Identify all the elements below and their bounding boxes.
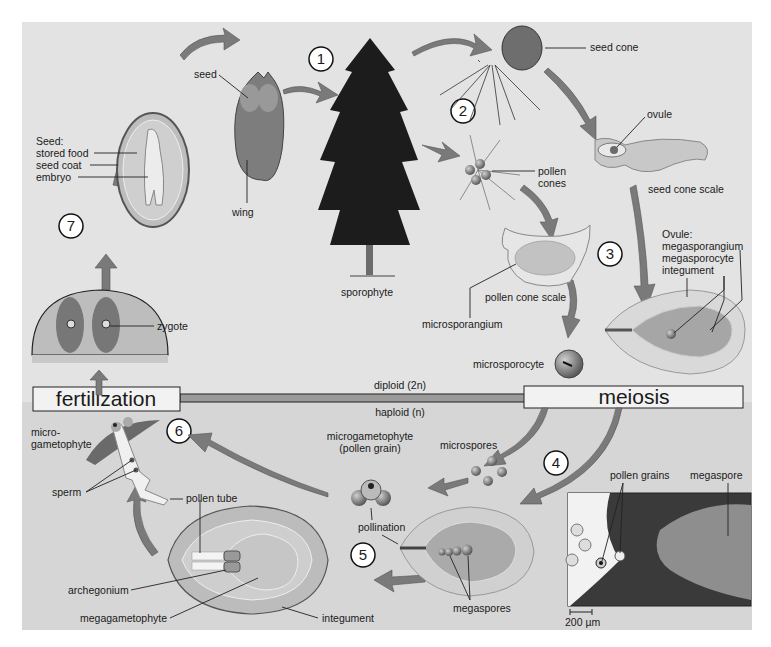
microgametophyte-pollen-grain-label-line2: (pollen grain)	[339, 442, 400, 454]
seed-cone-scale-label: seed cone scale	[648, 183, 724, 195]
embryo-label: embryo	[36, 171, 71, 183]
seed-cone-label: seed cone	[590, 41, 639, 53]
seed-cross-section	[117, 113, 189, 227]
ovule-title: Ovule:	[662, 228, 692, 240]
svg-text:1: 1	[317, 50, 325, 67]
svg-text:5: 5	[359, 546, 367, 563]
diploid-label: diploid (2n)	[374, 379, 426, 391]
pollen-cone-scale-label: pollen cone scale	[485, 291, 566, 303]
seed-label: seed	[194, 68, 217, 80]
megasporocyte-label: megasporocyte	[662, 252, 734, 264]
step-5-marker: 5	[351, 543, 375, 567]
pollen-cones-label-line1: pollen	[538, 165, 566, 177]
integument-label-top: integument	[662, 264, 714, 276]
microsporangium-label: microsporangium	[422, 318, 503, 330]
svg-text:4: 4	[552, 454, 560, 471]
microsporocyte-label: microsporocyte	[473, 358, 544, 370]
svg-text:6: 6	[175, 422, 183, 439]
sporophyte-label: sporophyte	[341, 286, 393, 298]
fertilization-label: fertilization	[56, 387, 156, 410]
seed-coat-label: seed coat	[36, 159, 82, 171]
megaspore-label: megaspore	[690, 469, 743, 481]
microgametophyte-label-line1: micro-	[31, 426, 61, 438]
pollen-cones-label-line2: cones	[538, 177, 566, 189]
microsporocyte-cell	[555, 350, 583, 378]
archegonium-label: archegonium	[68, 584, 129, 596]
step-7-marker: 7	[59, 214, 83, 238]
generation-divider	[180, 394, 525, 402]
pollen-tube-label: pollen tube	[186, 492, 238, 504]
haploid-label: haploid (n)	[375, 406, 425, 418]
zygote-label: zygote	[157, 320, 188, 332]
wing-label: wing	[231, 206, 254, 218]
ovule-label: ovule	[647, 108, 672, 120]
pine-life-cycle-diagram: diploid (2n) haploid (n) fertilization m…	[0, 0, 771, 647]
megaspores-label: megaspores	[453, 602, 511, 614]
megasporangium-label: megasporangium	[662, 240, 743, 252]
step-2-marker: 2	[451, 99, 475, 123]
microgametophyte-pollen-grain-label-line1: microgametophyte	[327, 430, 414, 442]
scale-bar-label: 200 µm	[565, 616, 600, 628]
sperm-label: sperm	[52, 486, 81, 498]
megagametophyte-label: megagametophyte	[80, 612, 167, 624]
microgametophyte-label-line2: gametophyte	[31, 438, 92, 450]
integument-label-bottom: integument	[322, 612, 374, 624]
stored-food-label: stored food	[36, 147, 89, 159]
pollen-grains-label: pollen grains	[610, 469, 670, 481]
micrograph-image	[566, 493, 751, 606]
svg-text:2: 2	[459, 102, 467, 119]
seed-title: Seed:	[36, 135, 63, 147]
meiosis-label: meiosis	[598, 385, 669, 408]
step-6-marker: 6	[167, 419, 191, 443]
pollination-label: pollination	[358, 521, 405, 533]
microspores-label: microspores	[440, 439, 497, 451]
svg-text:7: 7	[67, 217, 75, 234]
step-4-marker: 4	[544, 451, 568, 475]
svg-text:3: 3	[606, 245, 614, 262]
step-3-marker: 3	[598, 242, 622, 266]
step-1-marker: 1	[309, 47, 333, 71]
